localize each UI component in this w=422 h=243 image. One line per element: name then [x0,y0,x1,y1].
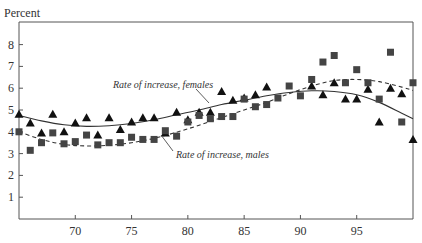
x-tick-label: 85 [238,224,250,238]
square-marker [286,83,293,90]
square-marker [331,52,338,59]
square-marker [27,147,34,154]
females-trend-line [19,91,413,127]
triangle-marker [127,117,136,125]
triangle-marker [409,135,418,143]
y-tick-label: 5 [8,103,14,117]
axes: 12345678707580859095 [8,22,413,238]
x-tick-label: 90 [294,224,306,238]
triangle-marker [48,110,57,118]
square-marker [252,103,259,110]
triangle-marker [60,127,69,135]
square-marker [72,138,79,145]
x-tick-label: 75 [126,224,138,238]
square-marker [376,96,383,103]
triangle-marker [206,108,215,116]
triangle-marker [71,119,80,127]
triangle-marker [26,119,35,127]
triangle-marker [341,95,350,103]
square-marker [94,141,101,148]
females-annotation: Rate of increase, females [112,79,213,90]
triangle-marker [228,96,237,104]
triangle-marker [262,83,271,91]
triangle-marker [116,125,125,133]
y-tick-label: 2 [8,168,14,182]
square-marker [263,101,270,108]
square-marker [162,127,169,134]
triangle-marker [150,113,159,121]
annotation-leader-line [161,135,173,151]
y-tick-label: 8 [8,38,14,52]
triangle-marker [397,89,406,97]
square-marker [16,128,23,135]
y-tick-label: 1 [8,190,14,204]
square-marker [173,133,180,140]
square-marker [364,79,371,86]
triangle-marker [251,90,260,98]
square-marker [196,112,203,119]
triangle-marker [375,117,384,125]
males-annotation: Rate of increase, males [175,149,269,160]
scatter-chart: 12345678707580859095 Rate of increase, f… [0,0,422,243]
square-marker [241,96,248,103]
square-marker [342,79,349,86]
square-marker [207,115,214,122]
x-tick-label: 70 [69,224,81,238]
square-marker [297,92,304,99]
square-marker [410,79,417,86]
square-marker [353,66,360,73]
triangle-marker [82,113,91,121]
x-tick-label: 95 [351,224,363,238]
y-tick-label: 6 [8,81,14,95]
annotation-leader-line [196,89,209,103]
triangle-marker [138,113,147,121]
square-marker [308,76,315,83]
square-marker [49,129,56,136]
triangle-marker [330,78,339,86]
y-tick-label: 3 [8,147,14,161]
triangle-marker [93,131,102,139]
square-marker [106,139,113,146]
triangle-marker [15,110,24,118]
square-marker [229,113,236,120]
square-marker [117,139,124,146]
square-marker [184,118,191,125]
square-marker [151,136,158,143]
square-marker [38,139,45,146]
triangle-marker [217,87,226,95]
trend-lines [19,79,413,146]
square-marker [128,134,135,141]
square-marker [139,136,146,143]
triangle-marker [105,113,114,121]
square-marker [83,132,90,139]
males-trend-line [19,79,413,146]
square-marker [398,118,405,125]
square-marker [61,140,68,147]
data-points [15,49,418,154]
triangle-marker [37,128,46,136]
x-tick-label: 80 [182,224,194,238]
square-marker [387,49,394,56]
y-tick-label: 7 [8,59,14,73]
y-tick-label: 4 [8,125,14,139]
square-marker [274,95,281,102]
triangle-marker [172,108,181,116]
square-marker [218,113,225,120]
square-marker [319,59,326,66]
